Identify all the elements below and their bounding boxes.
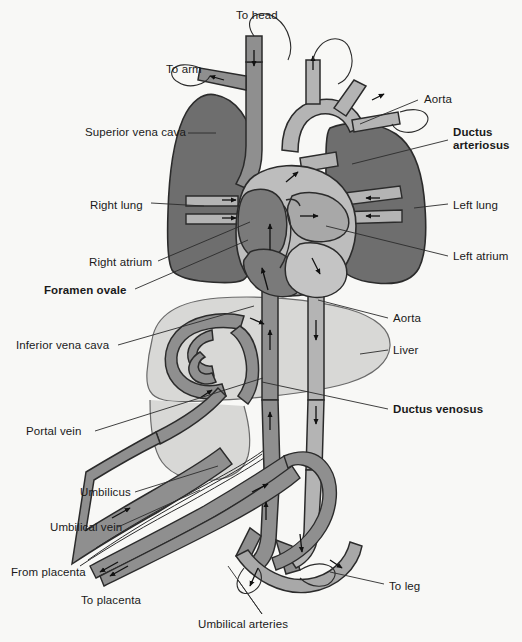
label-umbilical-arteries: Umbilical arteries — [198, 618, 288, 631]
label-aorta-top: Aorta — [424, 93, 452, 106]
label-to-placenta: To placenta — [81, 594, 141, 607]
label-from-placenta: From placenta — [11, 566, 86, 579]
label-ductus-venosus: Ductus venosus — [393, 403, 483, 416]
label-to-head: To head — [236, 9, 278, 22]
label-foramen-ovale: Foramen ovale — [44, 284, 126, 297]
label-liver: Liver — [393, 344, 418, 357]
label-right-lung: Right lung — [90, 199, 143, 212]
heart-shape — [236, 166, 356, 298]
fetal-circulation-figure: To head To arm Aorta Superior vena cava … — [0, 0, 522, 642]
label-inferior-vena-cava: Inferior vena cava — [16, 339, 109, 352]
label-aorta-lower: Aorta — [393, 312, 421, 325]
label-umbilical-vein: Umbilical vein — [50, 521, 122, 534]
label-umbilicus: Umbilicus — [80, 486, 131, 499]
label-left-lung: Left lung — [453, 199, 498, 212]
label-right-atrium: Right atrium — [89, 256, 152, 269]
label-portal-vein: Portal vein — [26, 425, 81, 438]
label-to-leg: To leg — [389, 580, 420, 593]
label-left-atrium: Left atrium — [453, 250, 508, 263]
label-superior-vena-cava: Superior vena cava — [85, 126, 186, 139]
label-to-arm: To arm — [166, 63, 202, 76]
label-ductus-arteriosus: Ductus arteriosus — [453, 126, 522, 152]
